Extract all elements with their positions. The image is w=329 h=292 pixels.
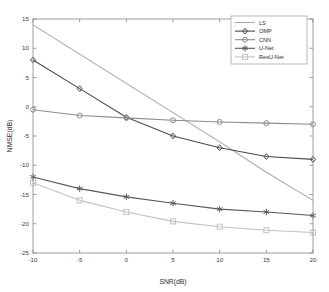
x-tick-label: 10 — [216, 256, 223, 263]
legend-label: ResU-Net — [259, 54, 284, 60]
legend-item-resu-net[interactable]: ResU-Net — [235, 54, 284, 60]
y-tick-label: 15 — [22, 15, 29, 22]
x-tick-label: 15 — [263, 256, 270, 263]
x-tick-label: -10 — [29, 256, 39, 263]
y-tick-label: -10 — [20, 161, 30, 168]
legend-label: U-Net — [259, 45, 274, 51]
y-tick-label: 5 — [26, 74, 30, 81]
y-tick-label: -25 — [20, 249, 30, 256]
nmse-vs-snr-line-chart: -10-505101520151050-5-10-15-20-25 SNR(dB… — [0, 0, 329, 292]
y-tick-label: -15 — [20, 191, 30, 198]
y-tick-label: -20 — [20, 220, 30, 227]
y-tick-label: -5 — [23, 132, 29, 139]
figure-canvas: -10-505101520151050-5-10-15-20-25 SNR(dB… — [0, 0, 329, 292]
legend-label: OMP — [259, 28, 272, 34]
x-axis-title: SNR(dB) — [159, 278, 186, 286]
x-tick-label: 5 — [171, 256, 175, 263]
chart-legend[interactable]: LSOMPCNNU-NetResU-Net — [231, 16, 307, 64]
y-axis-title: NMSE(dB) — [6, 120, 14, 152]
legend-label: CNN — [259, 37, 271, 43]
y-tick-label: 0 — [26, 103, 30, 110]
y-tick-label: 10 — [22, 44, 29, 51]
x-tick-label: 0 — [125, 256, 129, 263]
legend-label: LS — [259, 20, 266, 26]
x-tick-label: 20 — [310, 256, 317, 263]
x-tick-label: -5 — [77, 256, 83, 263]
